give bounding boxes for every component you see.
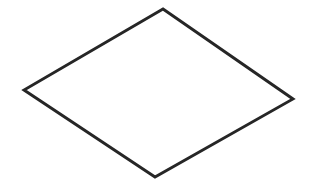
canvas-background (0, 0, 314, 183)
shape-canvas-svg (0, 0, 314, 183)
drawing-canvas[interactable] (0, 0, 314, 183)
